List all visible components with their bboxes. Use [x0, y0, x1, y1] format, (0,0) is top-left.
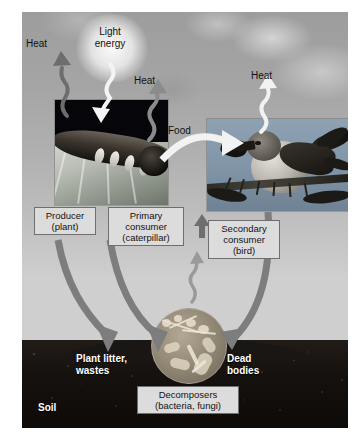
- label-heat-primary: Heat: [134, 75, 155, 87]
- producer-to-decomposer-arrow-icon: [58, 240, 118, 352]
- label-plant-litter: Plant litter, wastes: [76, 353, 156, 377]
- primary-consumer-to-decomposer-arrow-icon: [110, 240, 168, 352]
- label-dead-bodies: Dead bodies: [227, 353, 287, 377]
- label-heat-secondary: Heat: [251, 70, 272, 82]
- label-heat-producer: Heat: [26, 38, 47, 50]
- heat-primary-wavy-arrow-icon: [149, 79, 167, 140]
- light-energy-wavy-arrow-icon: [92, 64, 114, 123]
- label-producer: Producer (plant): [34, 207, 96, 235]
- label-food: Food: [168, 125, 191, 137]
- label-soil: Soil: [38, 402, 56, 414]
- heat-decomposer-wavy-arrow-icon: [190, 251, 204, 302]
- label-light-energy: Light energy: [84, 26, 136, 49]
- heat-secondary-wavy-arrow-icon: [259, 74, 277, 132]
- label-decomposers: Decomposers (bacteria, fungi): [137, 386, 239, 414]
- label-secondary-consumer: Secondary consumer (bird): [208, 220, 280, 259]
- heat-producer-wavy-arrow-icon: [53, 51, 71, 116]
- ecosystem-energy-flow-figure: Heat Light energy Heat Heat Food Produce…: [22, 12, 348, 428]
- label-primary-consumer: Primary consumer (caterpillar): [108, 207, 184, 246]
